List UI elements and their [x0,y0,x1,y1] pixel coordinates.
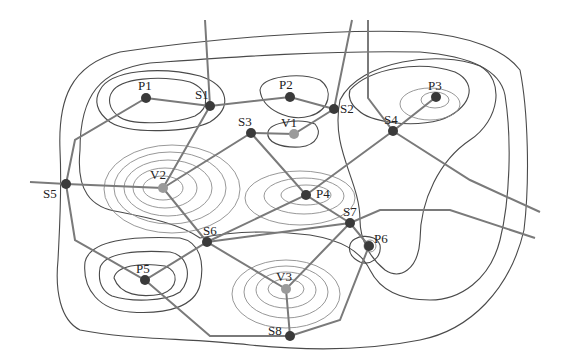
label-p3: P3 [428,79,442,92]
node-s3 [246,128,256,138]
node-s5 [61,179,71,189]
node-p4 [301,190,311,200]
node-s8 [285,331,295,341]
label-p5: P5 [136,262,150,275]
node-s4 [388,126,398,136]
label-s4: S4 [384,113,398,126]
node-s2 [329,104,339,114]
graph-nodes [61,92,441,341]
label-v2: V2 [150,168,166,181]
label-s2: S2 [340,102,354,115]
node-p6 [364,241,374,251]
node-s1 [205,101,215,111]
node-v3 [281,284,291,294]
node-p5 [140,275,150,285]
label-v1: V1 [281,116,297,129]
node-p2 [285,92,295,102]
label-p6: P6 [374,232,388,245]
node-v1 [289,129,299,139]
label-s8: S8 [268,324,282,337]
node-p1 [141,93,151,103]
contour-graph-diagram: P1 P2 P3 P4 P5 P6 V1 V2 V3 S1 S2 S3 S4 S… [0,0,574,357]
label-p1: P1 [138,79,152,92]
label-p2: P2 [279,78,293,91]
label-s6: S6 [203,224,217,237]
label-p4: P4 [316,187,330,200]
label-s1: S1 [195,88,209,101]
label-s5: S5 [43,187,57,200]
label-s3: S3 [238,115,252,128]
diagram-svg [0,0,574,357]
node-v2 [158,183,168,193]
node-s6 [202,237,212,247]
node-s7 [345,218,355,228]
node-p3 [431,92,441,102]
label-s7: S7 [343,205,357,218]
label-v3: V3 [276,270,292,283]
